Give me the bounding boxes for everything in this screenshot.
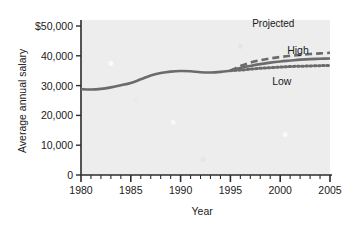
x-tick-label: 1985: [114, 185, 148, 196]
x-tick-label: 1980: [64, 185, 98, 196]
series-line-historical: [81, 71, 230, 90]
axis-lines: [81, 20, 332, 175]
y-tick-label: 10,000: [41, 140, 73, 151]
y-tick-label: 0: [67, 170, 73, 181]
projected-annotation: Projected: [252, 19, 294, 29]
x-axis-title: Year: [192, 206, 213, 217]
x-tick-label: 2000: [263, 185, 297, 196]
x-tick-label: 1990: [164, 185, 198, 196]
series-label-low: Low: [272, 76, 291, 87]
y-tick-label: 40,000: [41, 51, 73, 62]
series-label-high: High: [287, 45, 309, 56]
chart-figure: 010,00020,00030,00040,000$50,000 1980198…: [0, 0, 345, 227]
x-axis-ticks: [81, 175, 330, 182]
y-tick-label: 20,000: [41, 110, 73, 121]
x-tick-label: 1995: [213, 185, 247, 196]
y-tick-label: $50,000: [35, 21, 73, 32]
y-axis-title: Average annual salary: [16, 48, 28, 152]
x-tick-label: 2005: [313, 185, 345, 196]
series-lines: [81, 53, 330, 90]
y-tick-label: 30,000: [41, 81, 73, 92]
